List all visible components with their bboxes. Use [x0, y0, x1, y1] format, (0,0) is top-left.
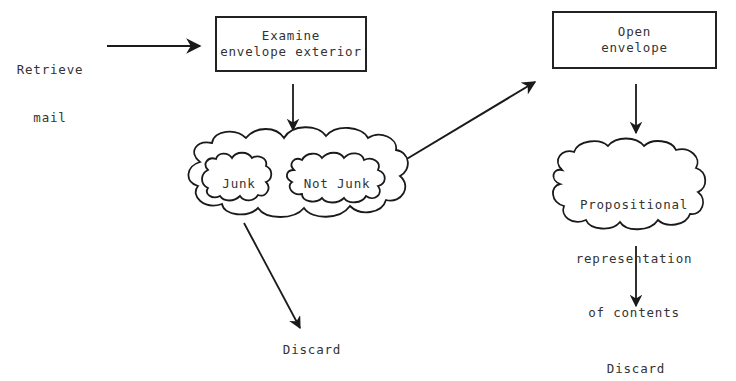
open-envelope-line1: Open: [618, 24, 651, 40]
examine-envelope-box: Examine envelope exterior: [215, 16, 367, 72]
retrieve-mail-label: Retrieve mail: [10, 30, 90, 158]
mail-processing-diagram: Retrieve mail Examine envelope exterior …: [0, 0, 736, 381]
open-envelope-box: Open envelope: [552, 11, 717, 69]
retrieve-mail-line2: mail: [10, 110, 90, 126]
arrow-junk-to-discard: [244, 223, 300, 328]
propositional-line2: representation: [572, 250, 696, 268]
propositional-line3: of contents: [572, 304, 696, 322]
retrieve-mail-line1: Retrieve: [10, 62, 90, 78]
final-action-label: Discard or Answer: [596, 324, 676, 381]
examine-envelope-line1: Examine: [262, 28, 320, 44]
examine-envelope-line2: envelope exterior: [220, 44, 362, 60]
not-junk-label: Not Junk: [292, 176, 382, 192]
propositional-line1: Propositional: [572, 196, 696, 214]
discard-junk-label: Discard: [272, 342, 352, 358]
junk-label: Junk: [212, 176, 266, 192]
final-action-line1: Discard: [596, 360, 676, 378]
arrow-notjunk-to-open: [405, 82, 535, 160]
open-envelope-line2: envelope: [601, 40, 668, 56]
